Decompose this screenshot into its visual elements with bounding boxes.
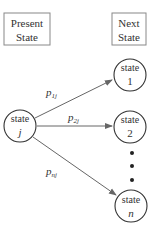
next-state-header: Next State [112, 13, 146, 45]
edge-label-p2j: p2j [67, 111, 79, 125]
svg-text:state: state [121, 114, 140, 125]
svg-text:n: n [128, 207, 134, 219]
svg-text:p2j: p2j [67, 111, 79, 125]
ellipsis-dots [130, 151, 134, 182]
node-state-2: state 2 [114, 111, 146, 143]
markov-transition-diagram: Present State Next State p1j p2j pnj sta… [0, 0, 152, 231]
present-state-header: Present State [4, 13, 50, 45]
present-state-line2: State [16, 31, 38, 43]
next-state-line1: Next [118, 17, 139, 29]
node-state-j: state j [4, 110, 36, 142]
svg-text:1: 1 [127, 75, 133, 87]
present-state-line1: Present [11, 17, 43, 29]
node-state-1: state 1 [114, 59, 146, 91]
svg-text:state: state [121, 62, 140, 73]
next-state-line2: State [118, 31, 140, 43]
svg-text:state: state [11, 113, 30, 124]
node-state-n: state n [115, 190, 147, 222]
edge-label-pnj: pnj [45, 165, 57, 179]
edge-label-p1j: p1j [45, 86, 57, 100]
svg-text:pnj: pnj [45, 165, 57, 179]
svg-text:state: state [122, 194, 141, 205]
svg-text:p1j: p1j [45, 86, 57, 100]
svg-text:2: 2 [127, 127, 133, 139]
